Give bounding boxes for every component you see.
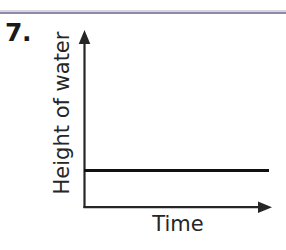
graph-figure: Height of water Time <box>0 0 286 250</box>
y-axis-arrowhead-icon <box>79 30 91 44</box>
x-axis-arrowhead-icon <box>258 201 272 213</box>
y-axis-label: Height of water <box>52 23 73 203</box>
x-axis-label: Time <box>84 214 272 235</box>
worksheet-problem-figure: 7. Height of water Time <box>0 0 286 250</box>
graph-plot <box>0 0 286 250</box>
